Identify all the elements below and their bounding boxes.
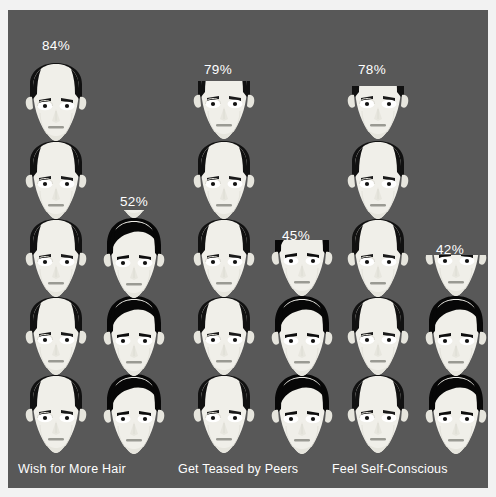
icon-layer [8, 10, 488, 488]
pictogram-icon-balding-man-face [18, 217, 94, 300]
partial-face-body [340, 86, 416, 142]
pictogram-icon-balding-man-face [18, 373, 94, 456]
pictogram-partial-icon-balding-man-face [18, 61, 94, 64]
infographic-canvas: 84% 52% Wish for More Hair 79% 45% Get T… [8, 10, 488, 488]
pictogram-icon-full-hair-man-face [96, 295, 172, 378]
pictogram-icon-full-hair-man-face [264, 295, 340, 378]
partial-face-body [18, 61, 94, 64]
pictogram-icon-balding-man-face [186, 217, 262, 300]
pictogram-partial-icon-full-hair-man-face [418, 255, 488, 298]
pictogram-icon-balding-man-face [186, 139, 262, 222]
pictogram-partial-icon-full-hair-man-face [264, 240, 340, 298]
partial-face-body [96, 210, 172, 220]
pictogram-icon-full-hair-man-face [96, 373, 172, 456]
pictogram-icon-balding-man-face [18, 61, 94, 144]
partial-face-body [264, 240, 340, 298]
pictogram-partial-icon-balding-man-face [340, 86, 416, 142]
pictogram-icon-balding-man-face [340, 373, 416, 456]
partial-face-body [186, 81, 262, 142]
pictogram-icon-balding-man-face [18, 295, 94, 378]
partial-face-body [418, 255, 488, 298]
pictogram-icon-balding-man-face [186, 295, 262, 378]
pictogram-icon-full-hair-man-face [96, 217, 172, 300]
pictogram-icon-full-hair-man-face [264, 373, 340, 456]
pictogram-icon-balding-man-face [340, 139, 416, 222]
pictogram-icon-balding-man-face [340, 295, 416, 378]
pictogram-icon-balding-man-face [186, 373, 262, 456]
pictogram-partial-icon-full-hair-man-face [96, 210, 172, 220]
pictogram-icon-full-hair-man-face [418, 373, 488, 456]
pictogram-icon-full-hair-man-face [418, 295, 488, 378]
pictogram-icon-balding-man-face [18, 139, 94, 222]
pictogram-icon-balding-man-face [340, 217, 416, 300]
pictogram-partial-icon-balding-man-face [186, 81, 262, 142]
